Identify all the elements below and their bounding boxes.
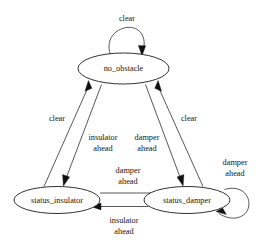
- state-label-status-insulator: status_insulator: [31, 196, 83, 205]
- edge-label-damper-ahead-selfloop-line2: ahead: [225, 169, 245, 178]
- edge-label-insulator-ahead-mid-line2: ahead: [114, 227, 134, 236]
- edge-insulator-to-no-obstacle-clear: [44, 81, 92, 187]
- arrowhead-clear-right: [155, 81, 162, 92]
- edge-damper-to-no-obstacle-clear: [155, 81, 203, 187]
- edge-label-insulator-ahead-line2: ahead: [93, 144, 113, 153]
- edge-label-insulator-ahead-line1: insulator: [88, 133, 117, 142]
- edge-path-clear-right: [157, 84, 203, 187]
- edge-label-insulator-ahead-mid-line1: insulator: [109, 216, 138, 225]
- state-label-status-damper: status_damper: [163, 196, 211, 205]
- edge-damper-to-insulator: [91, 203, 148, 210]
- state-node-status-damper[interactable]: status_damper: [144, 187, 230, 214]
- arrowhead-insulator-ahead: [63, 175, 70, 186]
- state-node-no-obstacle[interactable]: no_obstacle: [78, 53, 169, 84]
- edge-label-damper-ahead-mid-line1: damper: [116, 166, 141, 175]
- state-node-status-insulator[interactable]: status_insulator: [14, 187, 100, 214]
- edge-label-clear-left: clear: [49, 114, 65, 123]
- edge-label-damper-ahead-selfloop-line1: damper: [223, 158, 248, 167]
- arrowhead-clear-left: [85, 81, 92, 92]
- edge-no-obstacle-self-clear: [109, 27, 146, 55]
- edge-label-self-loop-top: clear: [119, 14, 135, 23]
- state-diagram-canvas: no_obstacle status_insulator status_damp…: [0, 0, 265, 248]
- edge-path-self-loop-top: [109, 27, 144, 55]
- state-diagram-svg: no_obstacle status_insulator status_damp…: [0, 0, 265, 248]
- edge-label-damper-ahead-mid-line2: ahead: [118, 177, 138, 186]
- state-label-no-obstacle: no_obstacle: [104, 64, 144, 73]
- edge-label-damper-ahead-line2: ahead: [137, 144, 157, 153]
- edge-label-damper-ahead-line1: damper: [135, 133, 160, 142]
- edge-label-clear-right: clear: [181, 114, 197, 123]
- arrowhead-damper-ahead: [177, 175, 184, 186]
